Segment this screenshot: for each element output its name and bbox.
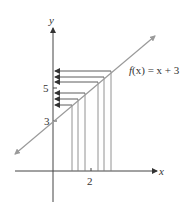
vertical-guides [72, 71, 111, 171]
tick-label-x-2: 2 [87, 175, 93, 187]
tick-label-y-3: 3 [44, 115, 50, 127]
y-axis-label: y [48, 14, 54, 26]
x-axis-label: x [158, 165, 164, 177]
function-label: f(x) = x + 3 [129, 64, 180, 77]
tick-label-y-5: 5 [43, 82, 49, 94]
horizontal-arrows [55, 71, 111, 105]
axes [15, 28, 157, 202]
function-expression: (x) = x + 3 [132, 64, 180, 77]
function-graph: x y 2 3 5 f(x) = x + 3 [0, 0, 192, 215]
